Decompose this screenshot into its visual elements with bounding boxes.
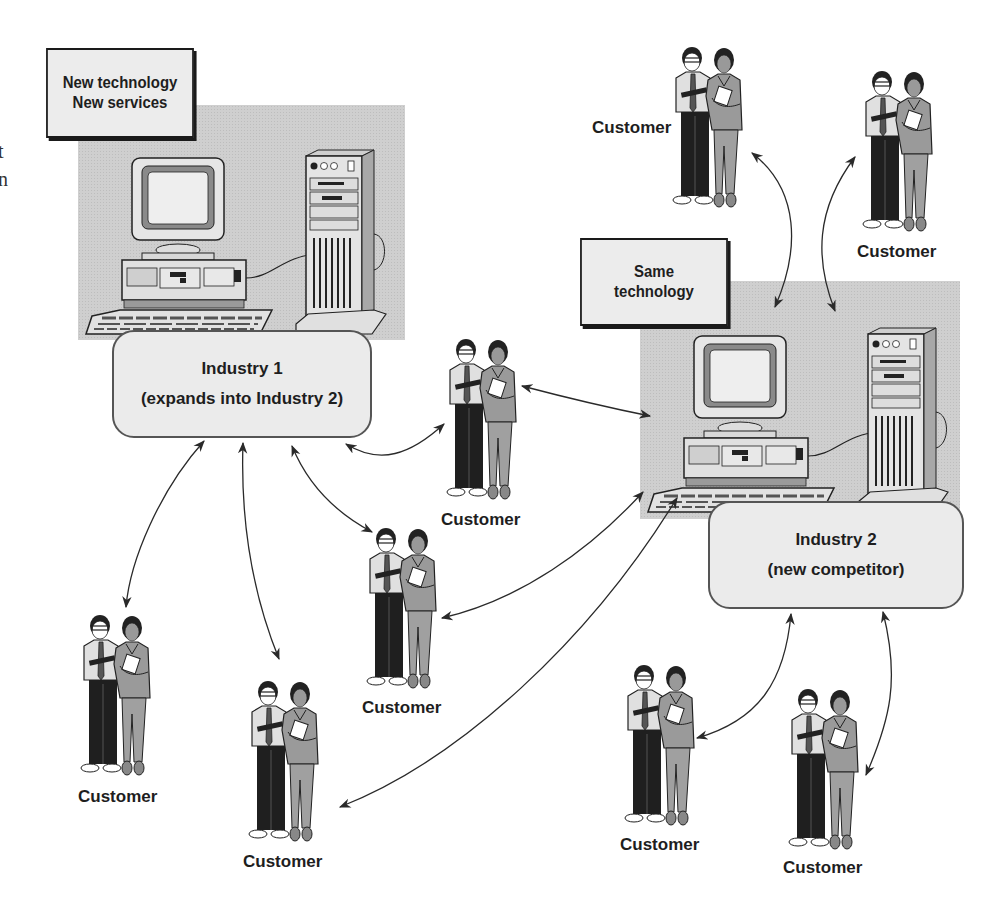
customer-label: Customer	[592, 118, 671, 138]
callout-line: technology	[614, 282, 694, 302]
industry2-computer-icon	[648, 328, 948, 512]
customer-icon	[81, 615, 150, 775]
arrow-ind1-bottomcenter	[243, 443, 279, 659]
customer-label: Customer	[783, 858, 862, 878]
industry2-title: Industry 2	[795, 525, 876, 555]
industry1-subtitle: (expands into Industry 2)	[141, 384, 343, 414]
arrow-ind1-midlower	[292, 446, 372, 532]
industry2-box: Industry 2 (new competitor)	[708, 501, 964, 609]
customer-icon	[789, 689, 858, 849]
arrow-ind2-bottomright2	[866, 612, 891, 775]
customer-icon	[447, 339, 516, 499]
customer-label: Customer	[620, 835, 699, 855]
customer-icon	[249, 681, 318, 841]
new-technology-callout: New technology New services	[46, 48, 194, 138]
customer-label: Customer	[243, 852, 322, 872]
customer-label: Customer	[362, 698, 441, 718]
industry1-title: Industry 1	[201, 354, 282, 384]
industry1-box: Industry 1 (expands into Industry 2)	[112, 330, 372, 438]
arrow-ind2-bottomright1	[697, 614, 791, 738]
customer-label: Customer	[78, 787, 157, 807]
arrow-topcenter-ind2	[752, 153, 792, 307]
same-technology-callout: Same technology	[580, 238, 728, 326]
industry1-computer-icon	[86, 150, 386, 334]
arrow-middle-ind2	[522, 386, 650, 416]
customer-icon	[863, 71, 932, 231]
callout-line: New services	[73, 93, 168, 113]
customer-icon	[673, 47, 742, 207]
industry2-subtitle: (new competitor)	[768, 555, 905, 585]
callout-line: Same	[634, 262, 674, 282]
arrow-topright-ind2	[822, 157, 855, 311]
customer-icon	[625, 665, 694, 825]
customer-label: Customer	[857, 242, 936, 262]
customer-label: Customer	[441, 510, 520, 530]
arrow-ind1-bottomleft	[126, 441, 204, 607]
customer-icon	[367, 528, 436, 688]
callout-line: New technology	[63, 73, 178, 93]
